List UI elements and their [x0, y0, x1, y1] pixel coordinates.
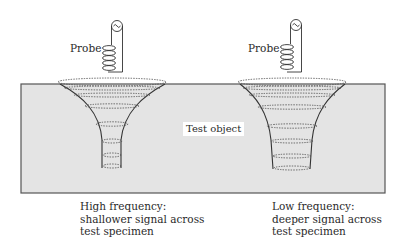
probe-label-low: Probe	[248, 42, 279, 54]
low-frequency-probe	[281, 20, 302, 73]
coil-icon	[281, 45, 294, 70]
coil-icon	[103, 46, 116, 71]
probe-label-high: Probe	[70, 42, 101, 54]
caption-line: test specimen	[80, 225, 204, 238]
caption-line: deeper signal across	[272, 213, 382, 226]
test-object-label: Test object	[183, 122, 244, 136]
caption-line: test specimen	[272, 225, 382, 238]
diagram: Probe Probe Test object High frequency: …	[0, 0, 404, 251]
high-frequency-caption: High frequency: shallower signal across …	[80, 200, 204, 238]
low-frequency-caption: Low frequency: deeper signal across test…	[272, 200, 382, 238]
test-object-block	[21, 84, 385, 193]
caption-line: shallower signal across	[80, 213, 204, 226]
caption-line: Low frequency:	[272, 200, 382, 213]
caption-line: High frequency:	[80, 200, 204, 213]
high-frequency-probe	[103, 21, 123, 73]
